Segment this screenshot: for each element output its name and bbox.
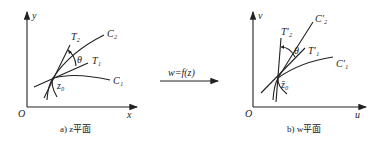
angle-arc-prime [281,47,295,57]
y-axis-label: y [31,10,37,21]
v-axis-label: v [258,10,263,21]
point-z0-label: z₀ [56,80,65,91]
conformal-mapping-diagram: y O x T₂ C₂ θ T₁ C₁ z₀ a) z平面 w=f(z) v O… [0,0,384,144]
curve-c2-prime-label: C′₂ [315,13,328,24]
caption-z-plane: a) z平面 [60,124,91,134]
caption-w-plane: b) w平面 [287,124,321,134]
tangent-t2-prime [276,38,281,102]
curve-c2-label: C₂ [107,28,118,39]
z-plane-panel: y O x T₂ C₂ θ T₁ C₁ z₀ a) z平面 [18,10,137,134]
curve-c2 [47,35,104,100]
point-z0-bar-label: z̄₀ [280,79,289,90]
u-axis-label: u [355,109,360,120]
w-plane-panel: v O u T′₂ C′₂ θ T′₁ C′₁ z̄₀ b) w平面 [245,10,366,134]
origin-label: O [18,108,25,119]
angle-arrow-icon-prime [281,45,284,49]
mapping-label: w=f(z) [168,67,195,79]
tangent-t1-prime-label: T′₁ [308,45,319,56]
angle-label-prime: θ [294,45,299,56]
mapping-arrow-group: w=f(z) [160,67,218,81]
curve-c1-label: C₁ [113,75,123,86]
tangent-t1-label: T₁ [92,55,101,66]
angle-label: θ [77,54,82,65]
curve-c1-prime-label: C′₁ [336,58,348,69]
x-axis-label: x [126,109,132,120]
tangent-t2-label: T₂ [71,31,81,42]
tangent-t2-prime-label: T′₂ [281,26,293,37]
origin-label-w: O [245,108,252,119]
